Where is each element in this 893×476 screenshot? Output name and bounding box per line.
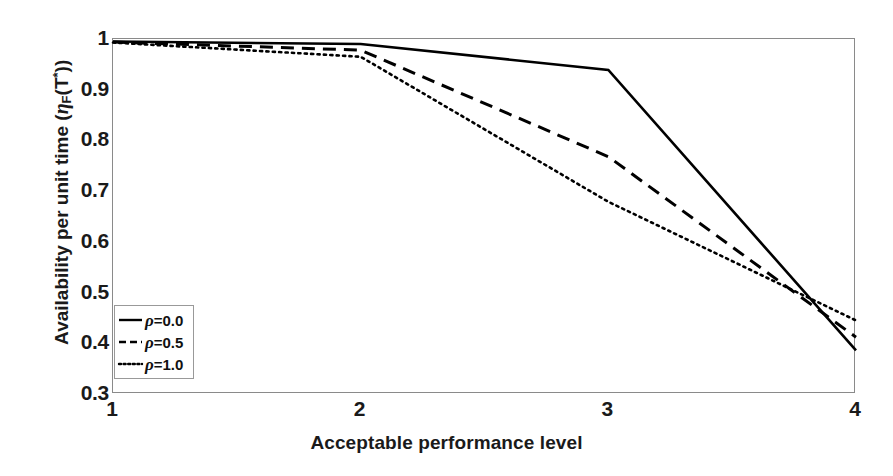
legend-sample-solid	[117, 314, 144, 326]
legend-item[interactable]: ρ=0.0	[117, 309, 193, 331]
t-superscript: *	[50, 72, 65, 77]
y-tick-label: 1	[98, 27, 109, 48]
legend-sample-dashed	[117, 336, 144, 348]
eta-subscript: F	[59, 95, 74, 103]
rho-value: =0.0	[154, 312, 184, 329]
y-tick-label: 0.8	[81, 128, 109, 149]
series-line-solid	[113, 42, 856, 351]
series-line-dotted	[113, 43, 856, 321]
legend-item[interactable]: ρ=1.0	[117, 353, 193, 375]
y-tick-label: 0.5	[81, 281, 109, 302]
rho-value: =0.5	[154, 334, 184, 351]
y-axis-title: Availability per unit time (ηF(T*))	[50, 0, 75, 412]
series-line-dashed	[113, 42, 856, 337]
rho-symbol: ρ	[145, 355, 154, 374]
rho-symbol: ρ	[145, 333, 154, 352]
y-tick-label: 0.6	[81, 230, 109, 251]
x-tick-label: 3	[587, 398, 627, 419]
y-tick-label: 0.9	[81, 78, 109, 99]
legend-sample-dotted	[117, 358, 144, 370]
eta-symbol: η	[50, 103, 72, 114]
x-tick-label: 2	[340, 398, 380, 419]
x-axis-title: Acceptable performance level	[0, 432, 893, 454]
rho-value: =1.0	[154, 356, 184, 373]
legend-label: ρ=0.0	[145, 312, 183, 329]
y-axis-title-suffix: ))	[51, 60, 72, 73]
legend-label: ρ=0.5	[145, 334, 183, 351]
y-tick-label: 0.4	[81, 331, 109, 352]
legend-box[interactable]: ρ=0.0ρ=0.5ρ=1.0	[114, 305, 194, 379]
series-svg	[113, 39, 856, 394]
plot-area	[112, 38, 855, 393]
chart-figure: Availability per unit time (ηF(T*)) Acce…	[0, 0, 893, 476]
rho-symbol: ρ	[145, 311, 154, 330]
y-tick-label: 0.7	[81, 179, 109, 200]
legend-item[interactable]: ρ=0.5	[117, 331, 193, 353]
x-tick-label: 1	[92, 398, 132, 419]
y-axis-title-prefix: Availability per unit time (	[51, 114, 72, 345]
x-tick-label: 4	[835, 398, 875, 419]
y-axis-title-mid: (T	[51, 77, 72, 95]
legend-label: ρ=1.0	[145, 356, 183, 373]
